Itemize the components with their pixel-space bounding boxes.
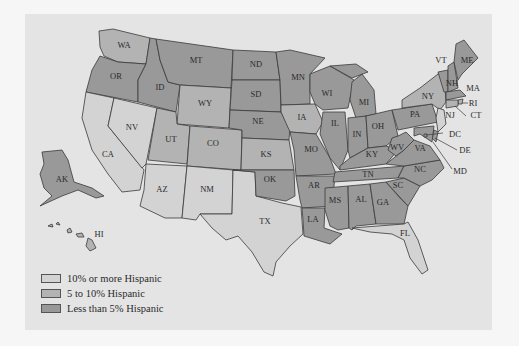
state-label-wy: WY (198, 98, 212, 108)
state-label-oh: OH (372, 121, 384, 131)
state-label-ne: NE (252, 116, 263, 126)
state-label-mo: MO (304, 144, 318, 154)
state-label-me: ME (461, 55, 474, 65)
legend-item-low: Less than 5% Hispanic (41, 301, 164, 316)
state-label-la: LA (307, 214, 319, 224)
state-label-dc: DC (449, 129, 461, 139)
state-label-or: OR (110, 71, 122, 81)
leader-ct (455, 106, 466, 116)
state-label-vt: VT (435, 55, 447, 65)
state-label-de: DE (459, 145, 470, 155)
state-label-ks: KS (261, 149, 272, 159)
legend-swatch-high (41, 274, 61, 283)
state-dc[interactable] (424, 134, 427, 137)
legend-label: 5 to 10% Hispanic (67, 288, 145, 299)
state-label-nj: NJ (445, 110, 455, 120)
state-label-tx: TX (259, 216, 270, 226)
state-label-ma: MA (466, 83, 481, 93)
state-co[interactable] (187, 126, 242, 170)
state-label-nd: ND (250, 59, 262, 69)
legend-label: 10% or more Hispanic (67, 273, 162, 284)
state-label-ut: UT (165, 134, 177, 144)
state-label-va: VA (414, 143, 426, 153)
state-label-ar: AR (308, 180, 320, 190)
state-label-ca: CA (102, 149, 115, 159)
state-label-fl: FL (400, 228, 410, 238)
state-label-md: MD (453, 166, 467, 176)
state-label-in: IN (353, 129, 362, 139)
state-label-nc: NC (414, 164, 426, 174)
legend-item-high: 10% or more Hispanic (41, 271, 164, 286)
state-label-nm: NM (200, 184, 214, 194)
state-label-sd: SD (251, 89, 262, 99)
state-label-il: IL (331, 118, 339, 128)
state-label-tn: TN (362, 169, 373, 179)
state-label-sc: SC (393, 180, 404, 190)
state-ma[interactable] (446, 90, 466, 100)
legend-swatch-mid (41, 289, 61, 298)
legend: 10% or more Hispanic 5 to 10% Hispanic L… (41, 271, 164, 316)
state-label-nv: NV (126, 122, 139, 132)
state-label-ct: CT (471, 110, 483, 120)
state-label-pa: PA (410, 109, 421, 119)
state-ms[interactable] (325, 186, 349, 230)
state-label-ky: KY (366, 149, 378, 159)
legend-swatch-low (41, 304, 61, 313)
state-ak[interactable] (40, 150, 104, 206)
state-label-ak: AK (56, 174, 69, 184)
state-label-az: AZ (156, 184, 167, 194)
state-label-ms: MS (329, 195, 342, 205)
state-label-co: CO (207, 138, 219, 148)
state-hi[interactable] (48, 222, 96, 251)
legend-item-mid: 5 to 10% Hispanic (41, 286, 164, 301)
state-label-al: AL (355, 194, 366, 204)
state-label-mt: MT (190, 55, 204, 65)
state-label-id: ID (156, 82, 165, 92)
legend-label: Less than 5% Hispanic (67, 303, 164, 314)
state-label-mn: MN (291, 72, 305, 82)
state-label-hi: HI (95, 229, 104, 239)
state-label-ga: GA (377, 197, 390, 207)
state-label-ok: OK (264, 174, 277, 184)
state-label-wi: WI (322, 88, 333, 98)
state-fl[interactable] (352, 222, 428, 274)
state-label-mi: MI (359, 97, 370, 107)
state-label-ia: IA (298, 112, 308, 122)
state-label-ny: NY (422, 91, 434, 101)
state-label-wa: WA (117, 40, 131, 50)
leader-de (435, 138, 457, 150)
state-label-wv: WV (390, 142, 405, 152)
state-label-nh: NH (446, 78, 458, 88)
state-label-ri: RI (469, 98, 478, 108)
